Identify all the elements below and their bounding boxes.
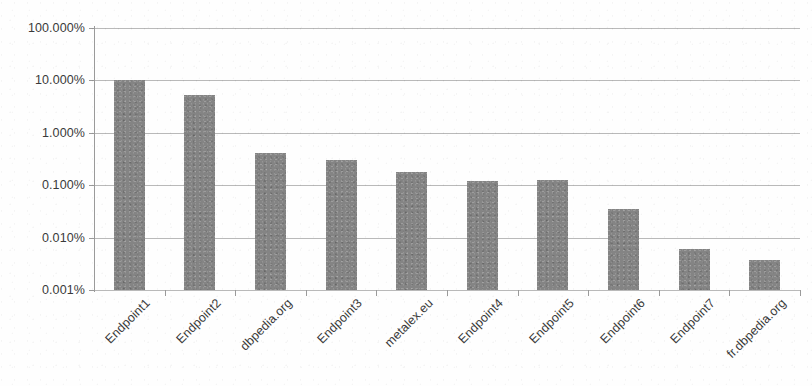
bar [679, 249, 710, 290]
x-axis-tick [588, 290, 589, 296]
category-label: Endpoint3 [315, 296, 365, 346]
category-label-text: dbpedia.org [237, 296, 294, 353]
category-label: metalex.eu [382, 296, 436, 350]
category-label-text: metalex.eu [382, 296, 436, 350]
gridline [94, 28, 800, 29]
x-axis-tick [447, 290, 448, 296]
category-label-text: Endpoint1 [103, 296, 153, 346]
bar [608, 209, 639, 290]
y-axis-tick-label: 0.001% [42, 283, 85, 297]
bar [749, 260, 780, 290]
x-axis-tick [306, 290, 307, 296]
x-axis-tick [518, 290, 519, 296]
y-axis-tick [89, 238, 95, 239]
y-axis-tick-label: 10.000% [35, 73, 85, 87]
category-label-text: fr.dbpedia.org [724, 296, 789, 361]
y-axis-tick [89, 28, 95, 29]
x-axis-tick [659, 290, 660, 296]
category-label-text: Endpoint3 [315, 296, 365, 346]
y-axis-tick [89, 133, 95, 134]
y-axis-tick-label: 0.100% [42, 178, 85, 192]
gridline [94, 80, 800, 81]
bar [326, 160, 357, 290]
y-axis-tick [89, 185, 95, 186]
y-axis-tick-label: 100.000% [28, 21, 85, 35]
category-label: Endpoint5 [526, 296, 576, 346]
category-label-text: Endpoint4 [456, 296, 506, 346]
y-axis-tick [89, 80, 95, 81]
category-label: dbpedia.org [237, 296, 294, 353]
category-label-text: Endpoint6 [597, 296, 647, 346]
x-axis-tick [165, 290, 166, 296]
y-axis-tick [89, 290, 95, 291]
x-axis-tick [376, 290, 377, 296]
bar [396, 172, 427, 290]
y-axis-tick-label: 0.010% [42, 231, 85, 245]
bar-chart: 100.000%10.000%1.000%0.100%0.010%0.001% … [0, 0, 812, 386]
x-axis-tick [800, 290, 801, 296]
category-label-text: Endpoint2 [173, 296, 223, 346]
category-label: Endpoint4 [456, 296, 506, 346]
category-label: Endpoint7 [668, 296, 718, 346]
bar [467, 181, 498, 290]
category-label: Endpoint6 [597, 296, 647, 346]
category-label-text: Endpoint5 [526, 296, 576, 346]
y-axis-tick-label: 1.000% [42, 126, 85, 140]
category-label: Endpoint2 [173, 296, 223, 346]
bar [114, 80, 145, 290]
category-label-text: Endpoint7 [668, 296, 718, 346]
plot-area: 100.000%10.000%1.000%0.100%0.010%0.001% [94, 28, 800, 290]
x-axis-tick [729, 290, 730, 296]
bar [255, 153, 286, 290]
x-axis-tick [235, 290, 236, 296]
category-label: fr.dbpedia.org [724, 296, 789, 361]
bar [184, 95, 215, 290]
category-label: Endpoint1 [103, 296, 153, 346]
bar [537, 180, 568, 290]
